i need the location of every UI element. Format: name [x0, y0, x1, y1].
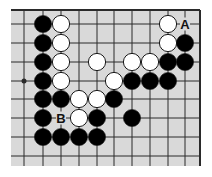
- black-stone: [159, 72, 176, 89]
- black-stone: [176, 53, 193, 70]
- black-stone: [52, 128, 69, 145]
- white-stone: [123, 53, 140, 70]
- white-stone: [70, 90, 87, 107]
- black-stone: [105, 90, 122, 107]
- black-stone: [34, 109, 51, 126]
- black-stone: [34, 128, 51, 145]
- white-stone: [52, 34, 69, 51]
- black-stone: [70, 128, 87, 145]
- star-point: [22, 79, 27, 84]
- star-points: [22, 79, 27, 84]
- white-stone: [52, 72, 69, 89]
- black-stone: [123, 72, 140, 89]
- point-label-a: A: [180, 17, 190, 32]
- black-stone: [34, 90, 51, 107]
- white-stone: [105, 72, 122, 89]
- black-stone: [34, 34, 51, 51]
- black-stone: [52, 90, 69, 107]
- black-stone: [88, 128, 105, 145]
- black-stone: [34, 53, 51, 70]
- point-label-b: B: [56, 111, 65, 126]
- white-stone: [88, 53, 105, 70]
- white-stone: [52, 15, 69, 32]
- black-stone: [159, 53, 176, 70]
- black-stone: [34, 15, 51, 32]
- black-stone: [123, 109, 140, 126]
- go-board: AB: [0, 0, 212, 177]
- black-stone: [88, 109, 105, 126]
- white-stone: [52, 53, 69, 70]
- white-stone: [159, 34, 176, 51]
- white-stone: [88, 90, 105, 107]
- white-stone: [70, 109, 87, 126]
- black-stone: [176, 34, 193, 51]
- white-stone: [159, 15, 176, 32]
- black-stone: [34, 72, 51, 89]
- white-stone: [141, 53, 158, 70]
- black-stone: [141, 72, 158, 89]
